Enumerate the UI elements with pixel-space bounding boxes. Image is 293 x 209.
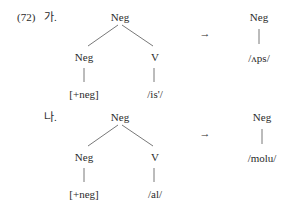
tree-left-node: Neg xyxy=(75,52,93,63)
arrow-icon: → xyxy=(200,128,211,139)
branch-line xyxy=(122,125,153,146)
result-node: Neg xyxy=(253,112,271,123)
tree-root-node: Neg xyxy=(111,12,129,23)
branch-line xyxy=(88,125,118,146)
tree-right-leaf: /al/ xyxy=(148,189,162,200)
tree-left-node: Neg xyxy=(75,152,93,163)
tree-right-node: V xyxy=(151,52,159,63)
tree-root-node: Neg xyxy=(111,112,129,123)
example-label: 나. xyxy=(44,112,57,123)
tree-left-leaf: [+neg] xyxy=(69,189,98,200)
arrow-icon: → xyxy=(200,28,211,39)
branch-line xyxy=(122,25,153,46)
tree-right-leaf: /is'/ xyxy=(147,89,162,100)
result-leaf: /molu/ xyxy=(248,153,277,164)
tree-lines xyxy=(0,0,293,209)
tree-right-node: V xyxy=(151,152,159,163)
result-leaf: /ʌps/ xyxy=(248,53,269,64)
example-number: (72) xyxy=(17,12,35,23)
tree-left-leaf: [+neg] xyxy=(69,89,98,100)
example-label: 가. xyxy=(44,12,57,23)
result-node: Neg xyxy=(250,12,268,23)
branch-line xyxy=(88,25,118,46)
